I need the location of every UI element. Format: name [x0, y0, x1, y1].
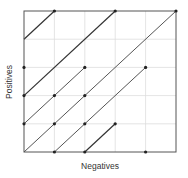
data-point [83, 122, 86, 125]
y-axis-label: Positives [4, 65, 14, 99]
data-point [53, 9, 56, 12]
data-lines [24, 11, 176, 152]
roc-chart: Negatives Positives [0, 0, 188, 178]
data-point [22, 66, 25, 69]
series-line-segment-2 [24, 11, 115, 96]
data-point [144, 150, 147, 153]
data-point [53, 150, 56, 153]
x-axis-label: Negatives [81, 161, 119, 171]
data-point [83, 150, 86, 153]
data-point [22, 122, 25, 125]
series-line-segment-6 [85, 124, 115, 152]
series-line-segment-1 [24, 11, 54, 39]
data-point [83, 66, 86, 69]
data-point [114, 9, 117, 12]
data-point [144, 66, 147, 69]
data-point [114, 122, 117, 125]
data-point [174, 9, 177, 12]
data-point [53, 122, 56, 125]
data-point [53, 94, 56, 97]
data-point [83, 94, 86, 97]
data-point [22, 94, 25, 97]
series-line-segment-4 [24, 11, 176, 152]
series-line-segment-5 [54, 67, 145, 152]
